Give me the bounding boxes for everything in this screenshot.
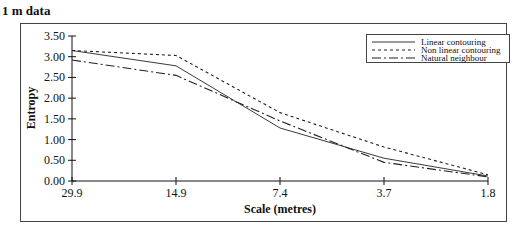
legend-label: Natural neighbour [421, 53, 487, 63]
series-line [72, 60, 488, 177]
legend: Linear contouringNon linear contouringNa… [366, 34, 510, 63]
x-tick-label: 29.9 [62, 186, 83, 200]
y-tick-label: 3.50 [44, 29, 65, 43]
x-tick-label: 7.4 [273, 186, 288, 200]
x-tick-label: 14.9 [166, 186, 187, 200]
y-tick-label: 3.00 [44, 50, 65, 64]
y-tick-label: 1.00 [44, 133, 65, 147]
y-tick-label: 1.50 [44, 112, 65, 126]
x-tick-label: 3.7 [377, 186, 392, 200]
y-tick-label: 2.00 [44, 91, 65, 105]
x-tick-label: 1.8 [481, 186, 496, 200]
y-axis-title: Entropy [24, 87, 38, 129]
data-lines [72, 51, 488, 177]
x-axis-title: Scale (metres) [244, 202, 316, 216]
legend-entries: Linear contouringNon linear contouringNa… [367, 35, 511, 64]
y-tick-label: 2.50 [44, 70, 65, 84]
y-tick-label: 0.50 [44, 153, 65, 167]
